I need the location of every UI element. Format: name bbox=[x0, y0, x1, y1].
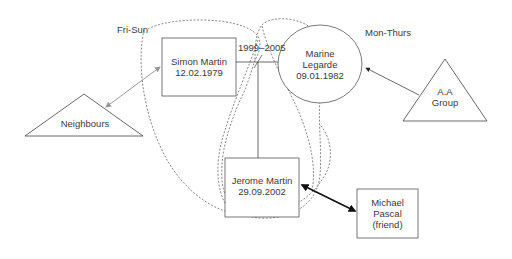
node-aa-group: A.A Group bbox=[415, 84, 475, 110]
group-label-mon-thurs: Mon-Thurs bbox=[365, 27, 411, 38]
marine-first-name: Marine bbox=[305, 48, 334, 59]
node-marine: Marine Legarde 09.01.1982 bbox=[278, 25, 362, 103]
aa-marine-arrow bbox=[366, 68, 419, 95]
node-jerome: Jerome Martin 29.09.2002 bbox=[225, 158, 299, 214]
jerome-dob: 29.09.2002 bbox=[238, 186, 286, 197]
michael-first-name: Michael bbox=[371, 197, 404, 208]
node-neighbours: Neighbours bbox=[40, 115, 130, 131]
simon-name: Simon Martin bbox=[171, 56, 227, 67]
node-michael: Michael Pascal (friend) bbox=[357, 189, 418, 238]
michael-last-name: Pascal bbox=[373, 208, 402, 219]
jerome-name: Jerome Martin bbox=[232, 175, 293, 186]
node-simon: Simon Martin 12.02.1979 bbox=[162, 38, 236, 96]
simon-dob: 12.02.1979 bbox=[175, 67, 223, 78]
marine-last-name: Legarde bbox=[303, 59, 338, 70]
neighbours-label: Neighbours bbox=[61, 118, 110, 129]
group-label-fri-sun: Fri-Sun bbox=[117, 24, 148, 35]
jerome-michael-arrow bbox=[302, 185, 355, 211]
group-label: Group bbox=[432, 97, 458, 108]
michael-role: (friend) bbox=[372, 219, 402, 230]
neighbours-simon-arrow bbox=[106, 67, 160, 107]
aa-label: A.A bbox=[437, 86, 452, 97]
marine-dob: 09.01.1982 bbox=[296, 70, 344, 81]
